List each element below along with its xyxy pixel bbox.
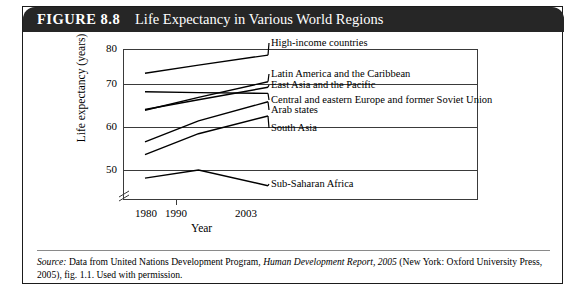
series-leader-line bbox=[268, 74, 269, 82]
figure-number: FIGURE 8.8 bbox=[37, 11, 120, 28]
series-line bbox=[145, 170, 268, 186]
figure-title: Life Expectancy in Various World Regions bbox=[135, 11, 383, 28]
series-leader-line bbox=[268, 93, 269, 100]
series-leader-line bbox=[268, 102, 269, 110]
source-title: Human Development Report, 2005 bbox=[263, 256, 397, 267]
source-note: Source: Data from United Nations Develop… bbox=[37, 256, 552, 282]
series-line bbox=[145, 92, 268, 94]
series-label-high-income: High-income countries bbox=[271, 37, 368, 48]
chart-plot-area: 80 70 60 50 1980 1990 2003 Life expectan… bbox=[23, 32, 564, 242]
series-label-sub-saharan: Sub-Saharan Africa bbox=[271, 178, 354, 189]
series-label-east-asia: East Asia and the Pacific bbox=[271, 79, 375, 90]
series-lines bbox=[23, 32, 564, 242]
series-line bbox=[145, 102, 268, 142]
series-leader-line bbox=[268, 43, 269, 55]
series-leader-line bbox=[268, 116, 269, 128]
series-label-latin-america: Latin America and the Caribbean bbox=[271, 68, 410, 79]
series-line bbox=[145, 116, 268, 155]
series-leader-line bbox=[268, 85, 269, 87]
source-label: Source: bbox=[37, 256, 66, 267]
series-label-south-asia: South Asia bbox=[271, 122, 317, 133]
source-text-1: Data from United Nations Development Pro… bbox=[66, 256, 263, 267]
series-label-arab-states: Arab states bbox=[271, 104, 318, 115]
figure-card: FIGURE 8.8 Life Expectancy in Various Wo… bbox=[22, 6, 563, 284]
series-line bbox=[145, 55, 268, 73]
source-divider bbox=[37, 250, 550, 251]
series-leader-line bbox=[268, 184, 269, 186]
figure-header-bar: FIGURE 8.8 Life Expectancy in Various Wo… bbox=[23, 7, 564, 32]
